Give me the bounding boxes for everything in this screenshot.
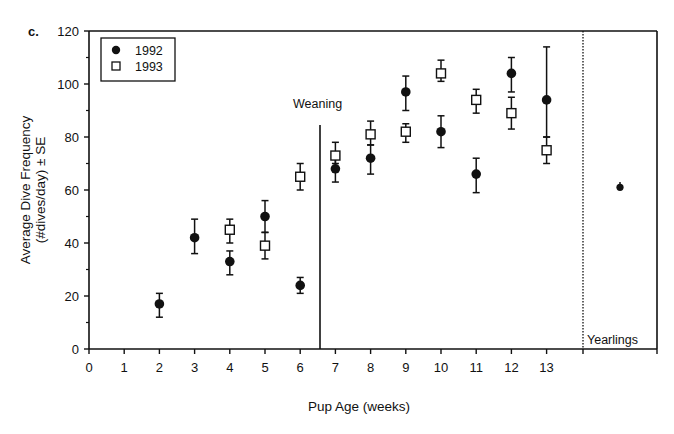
filled-circle-marker-icon — [616, 184, 623, 191]
filled-circle-marker-icon — [225, 257, 235, 267]
svg-text:Average Dive Frequency: Average Dive Frequency — [18, 116, 33, 265]
filled-circle-marker-icon — [471, 169, 481, 179]
filled-circle-marker-icon — [507, 69, 517, 79]
y-tick-label: 40 — [65, 236, 79, 251]
x-tick-label: 10 — [434, 360, 448, 375]
open-square-marker-icon — [296, 172, 305, 181]
open-square-marker-icon — [225, 225, 234, 234]
y-tick-label: 120 — [57, 24, 79, 39]
legend-1992-label: 1992 — [135, 44, 163, 58]
x-axis-ticks: 012345678910111213 — [85, 349, 657, 375]
series-1993 — [225, 60, 551, 259]
svg-text:(#dives/day) ± SE: (#dives/day) ± SE — [33, 137, 48, 243]
x-tick-label: 2 — [156, 360, 163, 375]
x-axis-label: Pup Age (weeks) — [308, 399, 410, 414]
open-square-marker-icon — [437, 69, 446, 78]
filled-circle-marker-icon — [155, 299, 165, 309]
x-tick-label: 11 — [469, 360, 483, 375]
panel-label: c. — [28, 24, 39, 39]
x-tick-label: 12 — [504, 360, 518, 375]
y-axis-ticks: 020406080100120 — [57, 24, 89, 357]
filled-circle-marker-icon — [401, 87, 411, 97]
open-square-marker-icon — [507, 109, 516, 118]
x-tick-label: 3 — [191, 360, 198, 375]
filled-circle-marker-icon — [366, 153, 376, 163]
open-square-marker-icon — [261, 241, 270, 250]
legend-1992-marker-icon — [112, 46, 120, 54]
y-axis-label: Average Dive Frequency (#dives/day) ± SE — [18, 116, 48, 265]
x-tick-label: 4 — [226, 360, 233, 375]
open-square-marker-icon — [401, 127, 410, 136]
open-square-marker-icon — [331, 151, 340, 160]
x-tick-label: 13 — [539, 360, 553, 375]
x-tick-label: 9 — [402, 360, 409, 375]
y-tick-label: 60 — [65, 183, 79, 198]
filled-circle-marker-icon — [331, 164, 341, 174]
series-1992 — [155, 47, 552, 317]
y-tick-label: 0 — [72, 342, 79, 357]
x-tick-label: 7 — [332, 360, 339, 375]
filled-circle-marker-icon — [542, 95, 552, 105]
series-yearlings — [616, 182, 623, 191]
filled-circle-marker-icon — [190, 233, 200, 243]
x-tick-label: 1 — [121, 360, 128, 375]
y-tick-label: 100 — [57, 77, 79, 92]
y-tick-label: 20 — [65, 289, 79, 304]
open-square-marker-icon — [366, 130, 375, 139]
filled-circle-marker-icon — [260, 212, 270, 222]
x-tick-label: 0 — [85, 360, 92, 375]
filled-circle-marker-icon — [436, 127, 446, 137]
legend-1993-label: 1993 — [135, 60, 163, 74]
x-tick-label: 8 — [367, 360, 374, 375]
legend-1993-marker-icon — [112, 62, 120, 70]
data-points — [155, 47, 624, 317]
x-tick-label: 5 — [261, 360, 268, 375]
open-square-marker-icon — [472, 95, 481, 104]
y-tick-label: 80 — [65, 130, 79, 145]
legend: 1992 1993 — [101, 38, 175, 81]
open-square-marker-icon — [542, 146, 551, 155]
dive-frequency-chart: c. 020406080100120 012345678910111213 We… — [0, 0, 674, 434]
yearlings-label: Yearlings — [587, 333, 638, 347]
filled-circle-marker-icon — [295, 281, 305, 291]
x-tick-label: 6 — [297, 360, 304, 375]
weaning-label: Weaning — [293, 97, 342, 111]
